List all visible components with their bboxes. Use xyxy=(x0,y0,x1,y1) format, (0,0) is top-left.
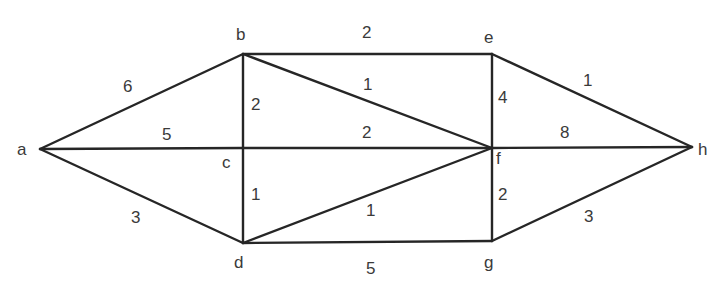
edge-weight-a-d: 3 xyxy=(131,208,140,227)
edge-a-c xyxy=(40,148,243,149)
edge-weight-a-b: 6 xyxy=(123,77,132,96)
edge-weight-b-f: 1 xyxy=(363,75,372,94)
edge-weight-g-h: 3 xyxy=(584,207,593,226)
edge-weight-e-h: 1 xyxy=(583,71,592,90)
edge-weights-layer: 653221121541823 xyxy=(123,23,593,278)
edge-d-f xyxy=(243,148,492,243)
edge-weight-c-d: 1 xyxy=(251,185,260,204)
weighted-graph-diagram: 653221121541823 abcdefgh xyxy=(0,0,728,296)
node-label-c: c xyxy=(222,153,231,172)
edge-weight-e-f: 4 xyxy=(498,88,507,107)
node-label-h: h xyxy=(698,140,707,159)
edge-weight-c-f: 2 xyxy=(362,123,371,142)
edge-weight-d-f: 1 xyxy=(366,201,375,220)
edge-a-d xyxy=(40,149,243,243)
node-label-g: g xyxy=(484,253,493,272)
node-label-b: b xyxy=(236,25,245,44)
edge-weight-b-e: 2 xyxy=(362,23,371,42)
edge-weight-d-g: 5 xyxy=(366,259,375,278)
edge-weight-f-h: 8 xyxy=(560,123,569,142)
node-label-f: f xyxy=(496,149,501,168)
edge-d-g xyxy=(243,241,492,243)
edge-a-b xyxy=(40,54,243,149)
edge-weight-b-c: 2 xyxy=(251,95,260,114)
edge-e-h xyxy=(492,54,692,147)
edge-weight-a-c: 5 xyxy=(162,125,171,144)
edge-g-h xyxy=(492,147,692,241)
edge-f-h xyxy=(492,147,692,148)
node-label-a: a xyxy=(17,140,27,159)
node-label-e: e xyxy=(484,28,493,47)
edge-weight-f-g: 2 xyxy=(498,185,507,204)
node-label-d: d xyxy=(234,253,243,272)
